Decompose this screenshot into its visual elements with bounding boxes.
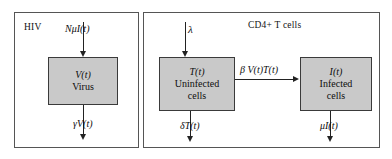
arrow-tcell-source-line bbox=[185, 22, 186, 52]
flow-label-infection: β V(t)T(t) bbox=[240, 64, 278, 75]
compartment-infected-cells: I(t) Infected cells bbox=[300, 57, 372, 111]
compartment-virus: V(t) Virus bbox=[48, 57, 118, 105]
arrow-infection-line bbox=[235, 79, 294, 80]
flow-label-virus-production: NμI(t) bbox=[65, 23, 89, 34]
flow-label-virus-clearance: γV(t) bbox=[73, 118, 93, 129]
compartment-virus-label: Virus bbox=[72, 81, 94, 93]
flow-label-infected-death: μI(t) bbox=[320, 120, 338, 131]
compartment-infected-label-line1: Infected bbox=[320, 78, 353, 90]
arrow-infection-head bbox=[293, 76, 299, 82]
compartment-infected-label-line2: cells bbox=[327, 90, 345, 102]
compartment-uninfected-label-line1: Uninfected bbox=[175, 78, 219, 90]
flow-label-uninfected-death: δT(t) bbox=[180, 120, 200, 131]
flow-label-tcell-source: λ bbox=[188, 23, 193, 35]
compartment-uninfected-label-line2: cells bbox=[188, 90, 206, 102]
panel-hiv-title: HIV bbox=[24, 22, 42, 32]
compartment-uninfected-cells: T(t) Uninfected cells bbox=[159, 57, 235, 111]
arrow-virus-clearance-head bbox=[80, 134, 86, 140]
compartment-virus-state: V(t) bbox=[75, 69, 91, 81]
compartment-infected-state: I(t) bbox=[330, 66, 343, 78]
arrow-infected-death-head bbox=[327, 136, 333, 142]
compartment-uninfected-state: T(t) bbox=[190, 66, 205, 78]
arrow-uninfected-death-head bbox=[187, 136, 193, 142]
panel-tcells-title: CD4+ T cells bbox=[248, 20, 301, 30]
hiv-tcell-model-diagram: HIV NμI(t) V(t) Virus γV(t) CD4+ T cells… bbox=[0, 0, 392, 159]
